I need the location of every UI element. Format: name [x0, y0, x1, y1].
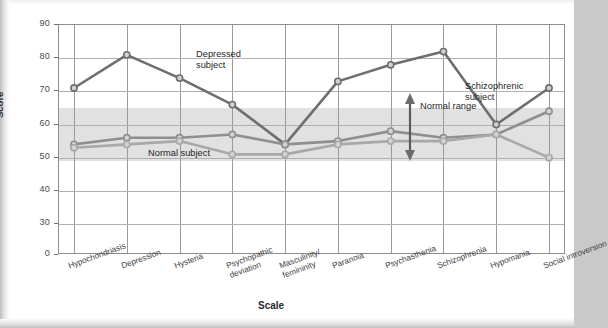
series-line: [74, 111, 549, 144]
data-point-marker: [71, 145, 77, 151]
depressed-subject-annotation-line1: Depressed: [196, 49, 241, 60]
data-point-marker: [176, 138, 182, 144]
data-point-marker: [335, 141, 341, 147]
page-bottom-edge: [0, 319, 574, 328]
depressed-subject-annotation: Depressed subject: [196, 49, 241, 71]
data-point-marker: [282, 141, 288, 147]
y-axis-tick-label: 70: [16, 84, 50, 94]
y-axis-title: Score: [0, 92, 5, 118]
normal-range-annotation: Normal range: [420, 101, 476, 112]
y-axis-tick-label: 40: [16, 184, 50, 194]
data-point-marker: [546, 155, 552, 161]
data-point-marker: [388, 62, 394, 68]
x-axis-tick-label-line1: Hysteria: [173, 252, 204, 271]
data-point-marker: [176, 75, 182, 81]
data-point-marker: [229, 102, 235, 108]
y-axis-tick-label: 50: [16, 151, 50, 161]
data-point-marker: [440, 138, 446, 144]
page-left-edge: [0, 0, 9, 328]
schizophrenic-subject-annotation: Schizophrenic subject: [465, 81, 523, 103]
plot-area: [58, 24, 565, 254]
data-point-marker: [71, 85, 77, 91]
data-point-marker: [124, 52, 130, 58]
y-axis-tick-label: 0: [16, 248, 50, 258]
page-top-edge: [0, 0, 574, 4]
data-point-marker: [124, 141, 130, 147]
y-axis-tick-label: 80: [16, 51, 50, 61]
normal-subject-annotation: Normal subject: [148, 148, 210, 159]
data-point-marker: [440, 48, 446, 54]
series-lines: [59, 25, 565, 254]
data-point-marker: [229, 151, 235, 157]
x-axis-tick-label: Hysteria: [173, 252, 204, 271]
data-point-marker: [493, 121, 499, 127]
data-point-marker: [546, 85, 552, 91]
y-axis-tick-label: 30: [16, 217, 50, 227]
y-axis-tick-mark: [54, 254, 58, 255]
data-point-marker: [388, 138, 394, 144]
y-axis-tick-label: 90: [16, 18, 50, 28]
data-point-marker: [388, 128, 394, 134]
depressed-subject-annotation-line2: subject: [196, 60, 241, 71]
data-point-marker: [124, 135, 130, 141]
data-point-marker: [546, 108, 552, 114]
data-point-marker: [229, 131, 235, 137]
x-axis-title: Scale: [258, 300, 284, 311]
y-axis-tick-label: 60: [16, 118, 50, 128]
data-point-marker: [335, 78, 341, 84]
schizophrenic-subject-annotation-line1: Schizophrenic: [465, 81, 523, 92]
data-point-marker: [493, 131, 499, 137]
normal-range-double-arrow-icon: [400, 92, 420, 162]
data-point-marker: [282, 151, 288, 157]
